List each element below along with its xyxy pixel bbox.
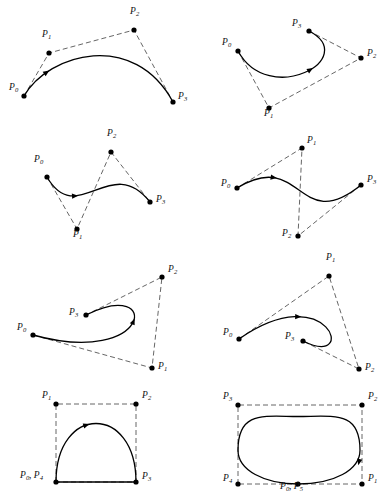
control-point-dot — [46, 50, 51, 55]
control-point-label-base: P — [264, 108, 270, 118]
control-point-dot — [299, 145, 304, 150]
control-point-label-subscript: 1 — [164, 365, 167, 372]
direction-arrow — [72, 194, 78, 199]
control-point-label-subscript: 1 — [313, 139, 316, 146]
control-point-label: P0 — [17, 323, 26, 333]
control-point-dot — [234, 185, 239, 190]
control-point-label: P3 — [367, 175, 376, 185]
control-point-label: P3 — [156, 195, 165, 205]
control-point-label-subscript: 0 — [229, 331, 232, 338]
control-point-label: P2 — [365, 363, 374, 373]
control-point-label: P4 — [223, 474, 232, 484]
control-point-label: P1 — [73, 230, 82, 240]
control-point-label: P1 — [158, 362, 167, 372]
control-polygon — [24, 30, 173, 102]
control-point-label: P3 — [292, 19, 301, 29]
control-point-label: P2 — [142, 391, 151, 401]
bezier-curve — [47, 177, 150, 202]
control-point-label-subscript: 3 — [291, 335, 294, 342]
bezier-curve — [33, 306, 135, 343]
control-point-dot — [133, 479, 138, 484]
control-point-dot — [300, 338, 305, 343]
control-point-label-subscript: 0 — [23, 326, 26, 333]
direction-arrow — [357, 459, 362, 466]
control-point-label: P0 — [222, 38, 231, 48]
control-point-label-subscript: 1 — [270, 112, 273, 119]
control-point-label-base: P — [142, 390, 148, 400]
control-point-label: P0 — [9, 83, 18, 93]
control-point-label-subscript: 3 — [373, 178, 376, 185]
control-point-label-subscript: 2 — [288, 232, 291, 239]
control-point-dot — [83, 312, 88, 317]
control-point-dot — [44, 174, 49, 179]
control-point-label: P2 — [168, 265, 177, 275]
control-polygon — [238, 31, 361, 108]
control-point-label-base: P — [107, 128, 113, 138]
control-point-label-subscript: 1 — [48, 33, 51, 40]
control-point-label-subscript: 5 — [300, 485, 303, 492]
bezier-curve — [24, 56, 173, 102]
control-point-dot — [306, 28, 311, 33]
control-point-label-base: P — [292, 18, 298, 28]
control-point-label-base: P — [34, 154, 40, 164]
control-point-dot — [53, 479, 58, 484]
control-point-label-subscript: 2 — [373, 52, 376, 59]
control-point-label-subscript: 1 — [374, 477, 377, 484]
control-point-label: P0, P4 — [20, 471, 43, 481]
control-point-dot — [235, 48, 240, 53]
control-point-label-base: P — [158, 361, 164, 371]
control-point-dot — [159, 274, 164, 279]
control-point-label-subscript: 2 — [148, 394, 151, 401]
control-point-dot — [108, 149, 113, 154]
bezier-curve — [238, 416, 360, 484]
control-point-label-base: P — [9, 82, 15, 92]
control-polygon — [239, 276, 359, 369]
control-point-label-base: P — [280, 481, 286, 491]
control-point-dot — [356, 366, 361, 371]
control-point-label: P1 — [42, 30, 51, 40]
control-point-label: P2 — [367, 49, 376, 59]
direction-arrow — [43, 70, 50, 76]
control-point-label: P3 — [223, 392, 232, 402]
control-point-label-subscript: 4 — [40, 474, 43, 481]
control-point-label-base: P — [223, 391, 229, 401]
control-point-dot — [149, 365, 154, 370]
control-point-label: P2 — [107, 129, 116, 139]
control-point-label-base: P — [42, 29, 48, 39]
control-point-dot — [295, 233, 300, 238]
control-point-dot — [358, 182, 363, 187]
bezier-curve — [56, 424, 136, 483]
control-point-label-base: P — [365, 362, 371, 372]
control-point-dot — [359, 402, 364, 407]
control-point-dot — [133, 401, 138, 406]
control-point-label-base: P — [17, 322, 23, 332]
control-point-label-subscript: 2 — [174, 268, 177, 275]
control-point-label-base: P — [282, 228, 288, 238]
control-point-label-base: P — [285, 331, 291, 341]
control-point-label-subscript: 2 — [136, 10, 139, 17]
control-point-label: P1 — [42, 391, 51, 401]
direction-arrow — [270, 175, 277, 180]
control-point-label: P0 — [34, 155, 43, 165]
control-point-label: P0 — [221, 179, 230, 189]
control-point-label: P1 — [264, 109, 273, 119]
control-point-label: P2 — [368, 392, 377, 402]
direction-arrow — [130, 319, 135, 326]
control-point-label-base: P — [368, 473, 374, 483]
control-polygon — [237, 148, 361, 236]
control-point-label-subscript: 2 — [374, 395, 377, 402]
control-point-label-subscript: 1 — [48, 394, 51, 401]
control-point-label-subscript: 1 — [79, 233, 82, 240]
control-point-label-subscript: 2 — [371, 366, 374, 373]
control-point-label-base: P — [222, 37, 228, 47]
control-polygon — [56, 404, 136, 482]
control-point-label-subscript: 4 — [229, 477, 232, 484]
control-point-label: P3 — [285, 332, 294, 342]
control-point-label-base: P — [223, 473, 229, 483]
control-point-dot — [30, 332, 35, 337]
control-point-label-subscript: 0 — [286, 485, 289, 492]
control-point-label-base: P — [223, 327, 229, 337]
control-point-dot — [131, 27, 136, 32]
bezier-curve — [238, 31, 325, 77]
control-point-label-subscript: 3 — [298, 22, 301, 29]
